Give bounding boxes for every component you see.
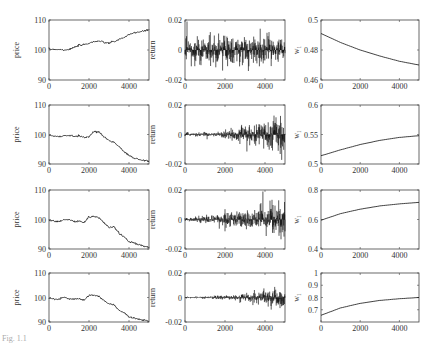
- x-tick-label: 2000: [81, 82, 97, 91]
- y-tick-label: -0.02: [165, 318, 182, 327]
- x-tick-label: 2000: [352, 251, 368, 260]
- y-axis-label: return: [148, 125, 157, 144]
- y-tick-label: 110: [34, 16, 46, 25]
- y-tick-label: 0.8: [308, 186, 318, 195]
- x-tick-label: 2000: [352, 166, 368, 175]
- y-tick-label: 0: [178, 216, 182, 225]
- y-tick-label: 0.02: [168, 186, 182, 195]
- y-tick-label: 0: [178, 131, 182, 140]
- y-axis-label: price: [12, 126, 21, 142]
- y-tick-label: 0.6: [308, 216, 318, 225]
- y-tick-label: 90: [38, 318, 46, 327]
- x-tick-label: 0: [183, 82, 187, 91]
- x-tick-label: 2000: [217, 251, 233, 260]
- y-tick-label: 1: [314, 269, 318, 278]
- x-tick-label: 2000: [81, 166, 97, 175]
- x-tick-label: 0: [319, 324, 323, 333]
- y-tick-label: 0.6: [308, 101, 318, 110]
- y-tick-label: 0.46: [304, 76, 318, 85]
- x-tick-label: 2000: [217, 82, 233, 91]
- x-tick-label: 4000: [391, 82, 407, 91]
- data-line: [49, 29, 149, 51]
- y-axis-label: return: [148, 40, 157, 59]
- y-tick-label: 0.8: [308, 294, 318, 303]
- data-line: [321, 298, 419, 316]
- data-line: [49, 131, 149, 162]
- y-tick-label: 90: [38, 160, 46, 169]
- x-tick-label: 2000: [81, 324, 97, 333]
- x-tick-label: 4000: [391, 251, 407, 260]
- x-tick-label: 4000: [121, 324, 137, 333]
- y-tick-label: 0.5: [308, 16, 318, 25]
- y-tick-label: -0.02: [165, 245, 182, 254]
- x-tick-label: 4000: [391, 324, 407, 333]
- x-tick-label: 0: [183, 166, 187, 175]
- y-axis-label: price: [12, 289, 21, 305]
- y-tick-label: 0.55: [304, 131, 318, 140]
- y-axis-label: price: [12, 211, 21, 227]
- y-axis-label: w₁: [292, 215, 301, 224]
- x-tick-label: 0: [47, 251, 51, 260]
- y-axis-label: w₁: [292, 293, 301, 302]
- y-axis-label: return: [148, 288, 157, 307]
- y-tick-label: 100: [34, 216, 46, 225]
- return-series: [185, 192, 285, 240]
- plot-frame: [321, 105, 419, 164]
- x-tick-label: 4000: [257, 251, 273, 260]
- y-tick-label: 90: [38, 76, 46, 85]
- x-tick-label: 2000: [217, 166, 233, 175]
- x-tick-label: 0: [319, 251, 323, 260]
- data-line: [321, 202, 419, 220]
- x-tick-label: 4000: [257, 82, 273, 91]
- y-tick-label: 110: [34, 101, 46, 110]
- y-tick-label: 0.4: [308, 245, 318, 254]
- y-tick-label: 0.7: [308, 306, 318, 315]
- x-tick-label: 2000: [352, 82, 368, 91]
- x-tick-label: 0: [319, 82, 323, 91]
- x-tick-label: 0: [319, 166, 323, 175]
- y-axis-label: price: [12, 42, 21, 58]
- x-tick-label: 4000: [391, 166, 407, 175]
- y-tick-label: 110: [34, 269, 46, 278]
- plot-frame: [321, 273, 419, 322]
- x-tick-label: 0: [47, 166, 51, 175]
- x-tick-label: 0: [183, 324, 187, 333]
- return-series: [185, 116, 285, 160]
- y-tick-label: 0: [178, 294, 182, 303]
- y-tick-label: 100: [34, 131, 46, 140]
- x-tick-label: 4000: [121, 82, 137, 91]
- x-tick-label: 2000: [352, 324, 368, 333]
- x-tick-label: 4000: [257, 166, 273, 175]
- data-line: [321, 34, 419, 66]
- data-line: [49, 295, 149, 322]
- y-tick-label: -0.02: [165, 76, 182, 85]
- y-tick-label: 90: [38, 245, 46, 254]
- x-tick-label: 4000: [121, 166, 137, 175]
- y-tick-label: -0.02: [165, 160, 182, 169]
- x-tick-label: 2000: [217, 324, 233, 333]
- x-tick-label: 2000: [81, 251, 97, 260]
- return-series: [185, 287, 285, 310]
- y-tick-label: 110: [34, 186, 46, 195]
- x-tick-label: 4000: [121, 251, 137, 260]
- y-axis-label: w₁: [292, 46, 301, 55]
- x-tick-label: 0: [183, 251, 187, 260]
- figure-grid: 02000400090100110price020004000-0.0200.0…: [0, 0, 438, 346]
- x-tick-label: 4000: [257, 324, 273, 333]
- y-axis-label: w₁: [292, 130, 301, 139]
- y-tick-label: 0.5: [308, 160, 318, 169]
- plot-frame: [321, 20, 419, 80]
- y-tick-label: 0.02: [168, 101, 182, 110]
- y-tick-label: 0.02: [168, 269, 182, 278]
- y-tick-label: 0: [178, 46, 182, 55]
- y-tick-label: 0.48: [304, 46, 318, 55]
- x-tick-label: 0: [47, 324, 51, 333]
- x-tick-label: 0: [47, 82, 51, 91]
- y-tick-label: 0.9: [308, 281, 318, 290]
- data-line: [321, 136, 419, 156]
- figure-caption: Fig. 1.1: [2, 334, 27, 343]
- y-tick-label: 100: [34, 46, 46, 55]
- plot-frame: [49, 105, 149, 164]
- y-axis-label: return: [148, 210, 157, 229]
- y-tick-label: 0.02: [168, 16, 182, 25]
